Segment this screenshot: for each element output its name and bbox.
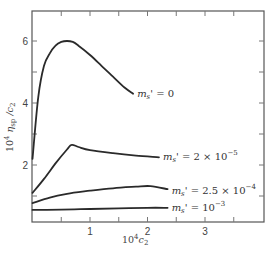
y-tick-label: 6 [22, 36, 28, 47]
viscosity-chart: 123246 ms' = 0ms' = 2 × 10−5ms' = 2.5 × … [0, 0, 270, 255]
curve-series-2 [33, 186, 168, 203]
series-label-3: ms' = 10−3 [172, 200, 226, 215]
series-labels: ms' = 0ms' = 2 × 10−5ms' = 2.5 × 10−4ms'… [137, 88, 256, 215]
y-tick-label: 2 [22, 160, 28, 171]
x-tick-label: 1 [87, 226, 93, 237]
series-label-0: ms' = 0 [137, 88, 174, 101]
y-axis-label: 104 ηsp /c2 [3, 103, 17, 152]
series-label-1: ms' = 2 × 10−5 [163, 149, 238, 164]
x-tick-label: 3 [202, 226, 208, 237]
data-curves [33, 41, 168, 210]
x-tick-label: 2 [145, 226, 151, 237]
curve-series-0 [33, 41, 134, 159]
series-label-2: ms' = 2.5 × 10−4 [172, 183, 257, 198]
curve-series-3 [33, 208, 168, 210]
y-tick-label: 4 [22, 98, 28, 109]
